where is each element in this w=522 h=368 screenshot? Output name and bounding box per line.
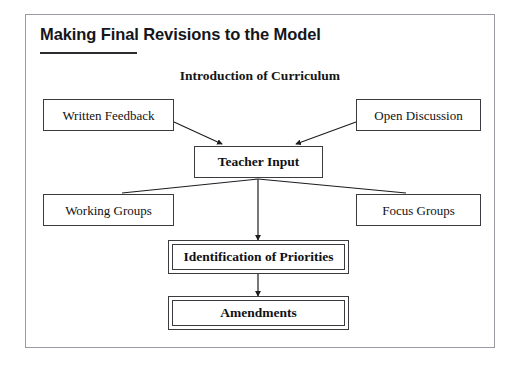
diagram-subtitle: Introduction of Curriculum xyxy=(26,68,494,84)
node-identification-of-priorities[interactable]: Identification of Priorities xyxy=(168,240,349,274)
node-written-feedback-label: Written Feedback xyxy=(62,109,154,122)
node-amendments[interactable]: Amendments xyxy=(168,296,349,330)
node-amendments-inner-rule: Amendments xyxy=(172,300,345,326)
node-focus-groups[interactable]: Focus Groups xyxy=(356,194,481,226)
node-open-discussion-label: Open Discussion xyxy=(374,109,462,122)
node-written-feedback[interactable]: Written Feedback xyxy=(43,99,174,131)
page-title: Making Final Revisions to the Model xyxy=(40,25,321,44)
node-amendments-label: Amendments xyxy=(220,306,297,320)
edge-open-discussion-to-teacher-input xyxy=(296,122,356,144)
diagram-frame: Making Final Revisions to the Model Intr… xyxy=(25,14,495,348)
node-working-groups[interactable]: Working Groups xyxy=(43,194,174,226)
edge-teacher-input-to-focus-groups xyxy=(258,179,406,193)
node-identification-of-priorities-label: Identification of Priorities xyxy=(184,250,334,264)
node-teacher-input[interactable]: Teacher Input xyxy=(194,146,323,178)
edge-teacher-input-to-working-groups xyxy=(122,179,258,193)
node-open-discussion[interactable]: Open Discussion xyxy=(356,99,481,131)
node-identification-inner-rule: Identification of Priorities xyxy=(172,244,345,270)
node-teacher-input-label: Teacher Input xyxy=(218,155,299,169)
node-focus-groups-label: Focus Groups xyxy=(382,204,455,217)
node-working-groups-label: Working Groups xyxy=(65,204,152,217)
title-underline-rule xyxy=(40,52,137,54)
edge-written-feedback-to-teacher-input xyxy=(174,122,222,144)
